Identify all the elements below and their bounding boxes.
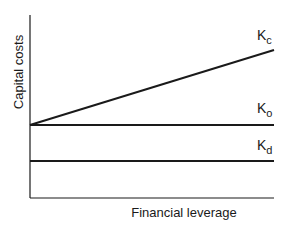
label-kc: Kc [257,27,272,46]
line-kc [30,50,274,125]
y-axis-label: Capital costs [11,34,26,109]
label-ko: Ko [257,100,272,119]
label-kd: Kd [257,137,272,156]
x-axis-label: Financial leverage [131,205,237,220]
chart: Kc Ko Kd Capital costs Financial leverag… [0,0,292,229]
